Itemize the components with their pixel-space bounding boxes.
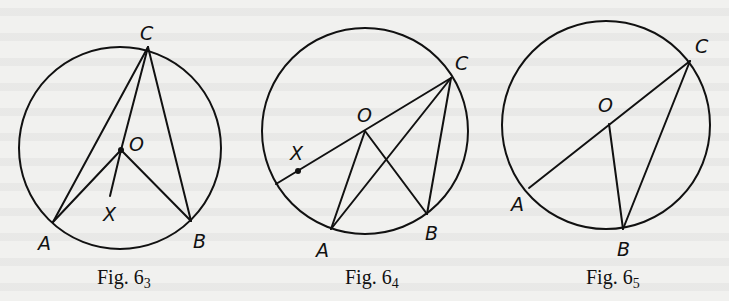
point-label-o: O — [598, 94, 613, 116]
point-label-b: B — [425, 222, 438, 244]
segment-oa — [331, 131, 365, 229]
point-label-o: O — [129, 133, 144, 155]
caption-number: 3 — [144, 276, 151, 291]
point-label-c: C — [140, 22, 154, 44]
figure-64-inscribed-angle-center-outside: COABX — [262, 28, 469, 261]
point-label-c: C — [695, 35, 709, 57]
caption-fig-63: Fig. 63 — [97, 266, 151, 289]
figure-65-inscribed-angle-diameter: COAB — [502, 21, 710, 260]
point-label-o: O — [357, 104, 372, 126]
segment-ob — [609, 124, 623, 229]
segment-cb — [148, 47, 191, 221]
caption-fig-64: Fig. 64 — [345, 266, 399, 289]
point-label-x: X — [102, 203, 117, 225]
point-label-a: A — [36, 232, 51, 254]
segment-ob — [121, 150, 191, 221]
point-label-c: C — [455, 52, 469, 74]
segment-ca — [331, 78, 451, 229]
point-label-b: B — [617, 238, 630, 260]
caption-text: Fig. 6 — [97, 266, 144, 288]
caption-number: 5 — [633, 276, 640, 291]
segment-cd — [276, 78, 451, 184]
caption-text: Fig. 6 — [586, 266, 633, 288]
point-label-b: B — [193, 230, 206, 252]
segment-ob — [365, 131, 427, 214]
point-label-x: X — [289, 142, 304, 164]
caption-fig-65: Fig. 65 — [586, 266, 640, 289]
geometry-diagrams: COABX COABX COAB — [0, 0, 729, 301]
caption-number: 4 — [392, 276, 399, 291]
point-label-a: A — [314, 239, 329, 261]
figure-63-inscribed-angle-center-inside: COABX — [19, 22, 221, 254]
point-dot-x — [295, 168, 301, 174]
point-dot-o — [118, 147, 124, 153]
caption-text: Fig. 6 — [345, 266, 392, 288]
point-label-a: A — [509, 193, 524, 215]
textbook-figure-page: COABX COABX COAB Fig. 63 Fig. 64 Fig. 65 — [0, 0, 729, 301]
circle — [502, 21, 710, 229]
